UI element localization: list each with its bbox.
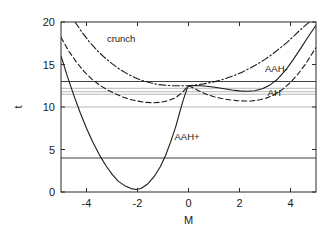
y-tick-label-15: 15	[43, 59, 55, 71]
plot-canvas: AAH+AAH-AHcrunch05101520-4-2024Mt	[0, 0, 333, 241]
y-axis-title: t	[12, 105, 24, 108]
y-tick-label-5: 5	[49, 144, 55, 156]
curve-aah-	[61, 56, 189, 189]
y-tick-label-10: 10	[43, 101, 55, 113]
x-tick-label-4: 4	[287, 197, 293, 209]
x-tick-label-0: -4	[82, 197, 92, 209]
curve-label-aah-: AAH+	[174, 131, 200, 142]
curve-annotations: AAH+AAH-AHcrunch	[107, 33, 288, 143]
axis-titles: Mt	[12, 105, 193, 226]
curve-label-ah: AH	[268, 87, 281, 98]
y-tick-label-0: 0	[49, 186, 55, 198]
x-axis-title: M	[184, 214, 193, 226]
x-tick-label-3: 2	[236, 197, 242, 209]
x-tick-label-1: -2	[133, 197, 143, 209]
x-tick-label-2: 0	[185, 197, 191, 209]
curves-group	[61, 22, 316, 189]
curve-label-crunch: crunch	[107, 33, 136, 44]
y-tick-label-20: 20	[43, 16, 55, 28]
curve-label-aah-: AAH-	[265, 63, 288, 74]
chart-figure: AAH+AAH-AHcrunch05101520-4-2024Mt	[0, 0, 333, 241]
